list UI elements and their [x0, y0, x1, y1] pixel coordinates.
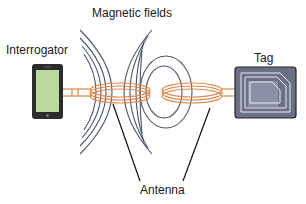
rfid-tag: [235, 67, 296, 118]
antenna-label: Antenna: [140, 184, 185, 196]
interrogator-device: [32, 64, 63, 119]
tag-label: Tag: [254, 52, 273, 64]
interrogator-leads: [63, 89, 92, 96]
tag-leads: [222, 89, 236, 96]
antenna-pointers: [113, 104, 210, 181]
interrogator-label: Interrogator: [6, 44, 68, 56]
rfid-diagram: [0, 0, 306, 204]
magnetic-fields-label: Magnetic fields: [92, 7, 172, 19]
